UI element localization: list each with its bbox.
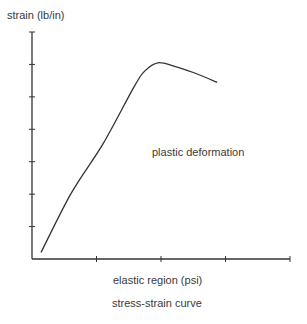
plastic-deformation-annotation: plastic deformation bbox=[152, 146, 244, 158]
chart-title: stress-strain curve bbox=[112, 297, 202, 309]
x-axis-label: elastic region (psi) bbox=[113, 274, 202, 286]
